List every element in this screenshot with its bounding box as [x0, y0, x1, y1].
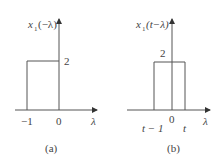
height-label-a: 2 [64, 55, 70, 67]
panel-a: x 1 (−λ) 2 −1 0 λ (a) [15, 18, 97, 155]
tick-a-0: 0 [56, 115, 62, 127]
xlabel-b: λ [202, 115, 208, 127]
ylabel-b-main: x [135, 18, 141, 30]
panel-b: x 1 (t−λ) 2 t − 1 0 t λ (b) [127, 18, 210, 155]
tick-a-neg1: −1 [21, 115, 33, 127]
height-label-b: 2 [160, 47, 166, 59]
ylabel-a-arg: (−λ) [38, 18, 57, 31]
tick-b-0: 0 [169, 113, 175, 125]
caption-b: (b) [167, 142, 180, 155]
ylabel-b-arg: (t−λ) [146, 18, 169, 31]
tick-b-t: t [183, 122, 187, 134]
tick-b-tminus1: t − 1 [142, 122, 163, 134]
ylabel-a-main: x [27, 18, 33, 30]
xlabel-a: λ [90, 115, 96, 127]
pulse-a [27, 61, 59, 110]
caption-a: (a) [45, 142, 58, 155]
pulse-b [154, 62, 185, 110]
convolution-diagram: x 1 (−λ) 2 −1 0 λ (a) x 1 (t−λ) 2 t − 1 … [0, 0, 223, 167]
